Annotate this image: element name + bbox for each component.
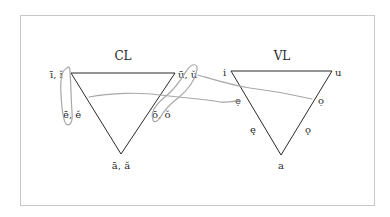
cl-label-mid-back: ō, ŏ	[152, 109, 170, 120]
vl-label-open-mid-front: ę	[250, 124, 256, 135]
vl-title: VL	[273, 49, 291, 63]
vl-label-high-back: u	[335, 67, 342, 78]
vl-label-close-mid-back: ọ	[318, 95, 324, 106]
annotation-line-to-close-mid-back	[198, 75, 312, 99]
vl-label-open-mid-back: ǫ	[305, 124, 311, 135]
vl-panel: VL i u ẹ ọ ę ǫ a	[223, 49, 342, 171]
cl-label-low: ā, ă	[112, 160, 130, 171]
cl-title: CL	[114, 49, 131, 63]
vl-triangle	[231, 71, 332, 155]
vl-label-high-front: i	[223, 67, 226, 78]
vowel-triangle-diagram: CL ī, ĭ ū, ŭ ē, ĕ ō, ŏ ā, ă VL i u ẹ ọ ę…	[0, 0, 390, 217]
vl-label-low: a	[278, 160, 284, 171]
